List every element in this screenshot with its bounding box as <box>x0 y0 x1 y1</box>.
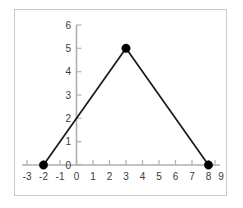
x-tick-label: 3 <box>123 171 129 182</box>
x-tick-label: 5 <box>156 171 162 182</box>
x-tick-label: 4 <box>140 171 146 182</box>
data-point-marker[interactable] <box>204 161 212 169</box>
y-tick-label: 1 <box>65 136 71 147</box>
data-markers <box>39 44 212 169</box>
y-tick-label: 6 <box>65 20 71 31</box>
x-tick-label: -1 <box>56 171 65 182</box>
x-tick-label: 1 <box>90 171 96 182</box>
x-tick-label: 6 <box>173 171 179 182</box>
x-tick-label: -3 <box>23 171 32 182</box>
x-tick-label: 8 <box>206 171 212 182</box>
x-tick-label: 7 <box>189 171 195 182</box>
x-tick-label: 9 <box>218 171 224 182</box>
data-point-marker[interactable] <box>122 44 130 52</box>
y-tick-label: 2 <box>65 113 71 124</box>
x-tick-label: 2 <box>107 171 113 182</box>
chart-plot-area: -3 -2 -1 0 1 2 3 4 5 6 7 8 9 0 1 2 3 4 5… <box>0 0 243 208</box>
y-tick-label: 0 <box>65 160 71 171</box>
x-tick-label: 0 <box>74 171 80 182</box>
y-axis-tick-labels: 0 1 2 3 4 5 6 <box>65 20 71 171</box>
y-tick-label: 4 <box>65 66 71 77</box>
y-tick-label: 3 <box>65 90 71 101</box>
x-tick-label: -2 <box>39 171 48 182</box>
y-tick-label: 5 <box>65 43 71 54</box>
x-axis-tick-labels: -3 -2 -1 0 1 2 3 4 5 6 7 8 9 <box>23 171 225 182</box>
chart-screenshot: -3 -2 -1 0 1 2 3 4 5 6 7 8 9 0 1 2 3 4 5… <box>0 0 243 208</box>
data-point-marker[interactable] <box>39 161 47 169</box>
